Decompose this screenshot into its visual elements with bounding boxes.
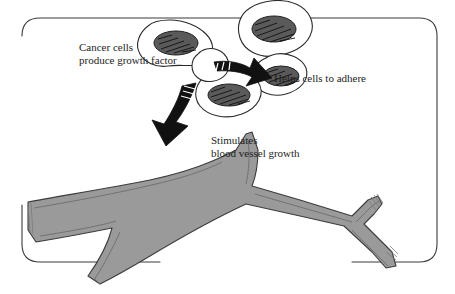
label-helps-cells-adhere: Helps cells to adhere	[274, 72, 366, 85]
label-cancer-cells: Cancer cells produce growth factor	[79, 41, 177, 67]
label-stimulates-blood-vessel-growth: Stimulates blood vessel growth	[211, 134, 300, 160]
growth-factor-arrow-down	[152, 83, 196, 146]
nucleus	[208, 84, 250, 106]
nucleus	[252, 16, 296, 42]
diagram-canvas: Cancer cells produce growth factor Helps…	[0, 0, 455, 294]
